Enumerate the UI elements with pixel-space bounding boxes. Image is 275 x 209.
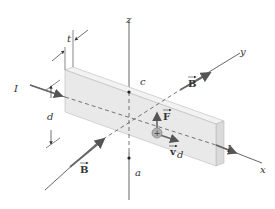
z-axis-label: z	[125, 14, 132, 25]
point-c-label: c	[140, 76, 146, 87]
drift-velocity-label: v d	[169, 146, 183, 160]
current-in-label: I	[13, 83, 19, 94]
x-axis-label: x	[260, 164, 266, 175]
point-c	[127, 90, 130, 93]
svg-text:F: F	[163, 111, 170, 122]
height-label: d	[47, 111, 53, 122]
hall-effect-diagram: + z y x I I t d c a B B F v d	[0, 0, 275, 209]
current-out-label: I	[226, 143, 232, 154]
thickness-label: t	[67, 33, 72, 44]
charge-sign: +	[154, 129, 161, 138]
y-axis-label: y	[239, 46, 246, 57]
svg-text:B: B	[80, 164, 88, 175]
svg-text:B: B	[188, 78, 196, 89]
force-label: F	[163, 110, 171, 122]
point-a	[127, 156, 130, 159]
svg-text:d: d	[177, 149, 183, 160]
current-in-arrow	[30, 85, 62, 96]
svg-text:v: v	[169, 146, 177, 157]
b-field-upper-label: B	[188, 77, 196, 89]
b-field-lower-label: B	[80, 163, 88, 175]
point-a-label: a	[135, 167, 141, 178]
